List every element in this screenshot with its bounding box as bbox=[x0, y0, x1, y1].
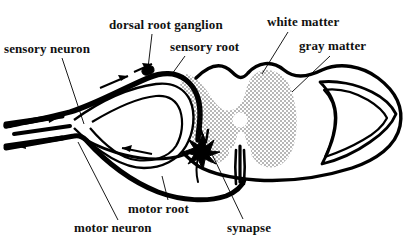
diagram-canvas bbox=[0, 0, 415, 246]
afferent-arrow-upper bbox=[100, 75, 128, 88]
label-sensory-neuron: sensory neuron bbox=[4, 42, 90, 55]
label-synapse: synapse bbox=[227, 221, 271, 234]
central-canal bbox=[233, 113, 248, 128]
leader-sensory-root bbox=[172, 56, 185, 74]
label-motor-neuron: motor neuron bbox=[74, 221, 152, 234]
leader-dorsal-root-ganglion bbox=[148, 34, 152, 68]
leader-white-matter bbox=[262, 32, 288, 74]
spinal-cord-diagram: sensory neuron dorsal root ganglion sens… bbox=[0, 0, 415, 246]
label-motor-root: motor root bbox=[128, 202, 189, 215]
label-gray-matter: gray matter bbox=[299, 39, 366, 52]
label-dorsal-root-ganglion: dorsal root ganglion bbox=[109, 18, 223, 31]
label-white-matter: white matter bbox=[267, 15, 339, 28]
label-sensory-root: sensory root bbox=[170, 40, 239, 53]
